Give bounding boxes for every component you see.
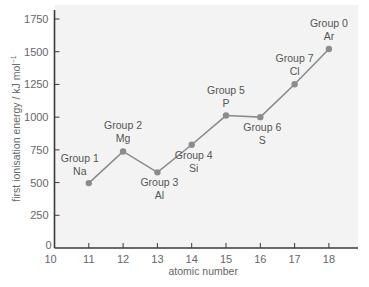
data-point-cl [291, 81, 297, 87]
group-label: Group 0 [310, 17, 348, 29]
group-label: Group 6 [243, 121, 281, 133]
y-tick-label: 500 [30, 177, 48, 189]
element-label: Cl [290, 65, 300, 77]
group-label: Group 3 [140, 176, 178, 188]
y-axis-title-superscript: −1 [10, 55, 17, 63]
element-label: S [259, 134, 266, 146]
group-label: Group 2 [104, 119, 142, 131]
element-label: P [222, 97, 229, 109]
element-label: Na [73, 165, 87, 177]
group-label: Group 4 [175, 149, 213, 161]
group-label: Group 7 [276, 52, 314, 64]
data-point-mg [120, 148, 126, 154]
x-tick-label: 18 [323, 253, 335, 265]
element-label: Ar [324, 30, 335, 42]
x-tick-label: 10 [44, 253, 56, 265]
y-tick-label: 1500 [24, 46, 48, 58]
data-point-si [189, 142, 195, 148]
element-label: Mg [116, 132, 131, 144]
x-tick-label: 17 [288, 253, 300, 265]
y-axis-title: first ionisation energy / kJ mol−1 [10, 55, 22, 201]
group-label: Group 5 [207, 84, 245, 96]
plot-background [55, 5, 359, 248]
x-tick-label: 14 [186, 253, 198, 265]
element-label: Si [189, 162, 198, 174]
x-tick-label: 11 [83, 253, 94, 265]
y-tick-label: 0 [45, 239, 51, 251]
group-label: Group 1 [61, 152, 99, 164]
x-tick-label: 13 [151, 253, 163, 265]
data-point-s [257, 114, 263, 120]
data-point-al [154, 169, 160, 175]
x-axis-title: atomic number [169, 265, 239, 277]
y-tick-label: 750 [30, 144, 48, 156]
data-point-ar [326, 46, 332, 52]
y-tick-label: 1750 [24, 13, 48, 25]
x-tick-label: 16 [254, 253, 266, 265]
ionisation-energy-chart: Group 1NaGroup 2MgGroup 3AlGroup 4SiGrou… [0, 0, 369, 287]
y-axis-title-main: first ionisation energy / kJ mol [10, 63, 22, 201]
y-tick-label: 1000 [24, 111, 48, 123]
x-tick-label: 15 [220, 253, 232, 265]
y-tick-label: 250 [30, 209, 48, 221]
y-tick-label: 1250 [24, 78, 48, 90]
element-label: Al [155, 189, 164, 201]
x-tick-label: 12 [117, 253, 129, 265]
data-point-na [86, 180, 92, 186]
data-point-p [223, 112, 229, 118]
